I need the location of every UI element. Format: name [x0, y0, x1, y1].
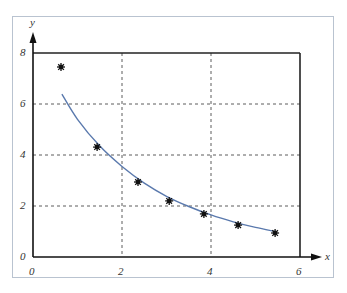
x-tick-2: 2 — [118, 265, 124, 277]
y-tick-2: 2 — [20, 199, 26, 211]
fitted-curve-line — [62, 94, 275, 231]
y-tick-0: 0 — [20, 250, 26, 262]
chart: x y 0 2 4 6 8 0 2 4 6 — [0, 0, 347, 293]
asterisk-marker-icon — [234, 221, 242, 229]
data-points — [57, 63, 279, 237]
axes — [33, 38, 318, 257]
x-tick-0: 0 — [29, 265, 35, 277]
x-axis-arrow-icon — [311, 254, 322, 261]
y-tick-6: 6 — [20, 97, 26, 109]
asterisk-marker-icon — [93, 143, 101, 151]
asterisk-marker-icon — [165, 197, 173, 205]
gridlines — [33, 53, 300, 257]
y-axis-arrow-icon — [30, 32, 37, 43]
asterisk-marker-icon — [271, 229, 279, 237]
x-tick-4: 4 — [207, 265, 213, 277]
y-tick-4: 4 — [20, 148, 26, 160]
y-axis-label: y — [29, 16, 35, 28]
y-tick-8: 8 — [20, 46, 26, 58]
asterisk-marker-icon — [57, 63, 65, 71]
asterisk-marker-icon — [134, 178, 142, 186]
x-tick-6: 6 — [296, 265, 302, 277]
fitted-curve — [62, 94, 275, 231]
x-axis-label: x — [324, 250, 330, 262]
